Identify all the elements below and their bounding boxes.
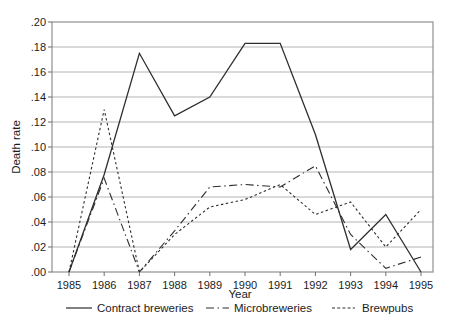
legend: Contract breweries Microbreweries Brewpu… <box>66 302 413 314</box>
y-tick-label: .12 <box>31 116 46 128</box>
y-axis-title: Death rate <box>10 120 22 174</box>
x-tick-label: 1995 <box>409 279 433 291</box>
y-tick-label: .02 <box>31 241 46 253</box>
y-tick-label: .06 <box>31 191 46 203</box>
series-line-contract-breweries <box>69 43 421 272</box>
x-tick-label: 1989 <box>198 279 222 291</box>
y-tick-label: .16 <box>31 66 46 78</box>
chart-canvas: .00.02.04.06.08.10.12.14.16.18.201985198… <box>0 0 451 331</box>
x-tick-label: 1987 <box>127 279 151 291</box>
x-tick-label: 1991 <box>268 279 292 291</box>
series-line-microbreweries <box>69 166 421 272</box>
series-line-brewpubs <box>69 110 421 273</box>
legend-label-microbreweries: Microbreweries <box>234 302 312 314</box>
x-tick-label: 1988 <box>162 279 186 291</box>
x-tick-label: 1985 <box>57 279 81 291</box>
x-axis-title: Year <box>228 288 251 300</box>
x-tick-label: 1992 <box>303 279 327 291</box>
y-tick-label: .08 <box>31 166 46 178</box>
y-tick-label: .20 <box>31 16 46 28</box>
grid-layer <box>52 47 433 247</box>
y-tick-label: .00 <box>31 266 46 278</box>
tick-label-layer: .00.02.04.06.08.10.12.14.16.18.201985198… <box>31 16 434 291</box>
x-tick-label: 1993 <box>338 279 362 291</box>
x-tick-label: 1986 <box>92 279 116 291</box>
legend-label-brewpubs: Brewpubs <box>362 302 413 314</box>
y-tick-label: .04 <box>31 216 46 228</box>
y-tick-label: .18 <box>31 41 46 53</box>
death-rate-line-chart: .00.02.04.06.08.10.12.14.16.18.201985198… <box>0 0 451 331</box>
y-tick-label: .10 <box>31 141 46 153</box>
y-tick-label: .14 <box>31 91 46 103</box>
legend-label-contract-breweries: Contract breweries <box>97 302 194 314</box>
series-layer <box>69 43 421 272</box>
x-tick-label: 1994 <box>374 279 398 291</box>
